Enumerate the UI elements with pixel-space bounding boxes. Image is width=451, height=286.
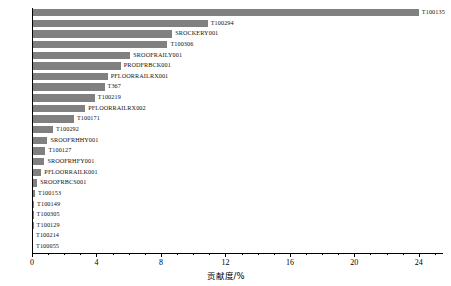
bar-row: PFLOORRAILK001 (32, 168, 443, 179)
bar-row: T100294 (32, 19, 443, 30)
x-minor-tick (64, 253, 65, 255)
x-tick-label: 20 (350, 258, 358, 267)
bar-row: T100171 (32, 114, 443, 125)
bar (32, 115, 74, 122)
bar (32, 52, 130, 59)
bar-row: T100055 (32, 242, 443, 253)
x-tick-label: 24 (415, 258, 423, 267)
bar-category-label: PFLOORRAILK001 (44, 167, 97, 178)
bar-row: T100214 (32, 231, 443, 242)
x-minor-tick (338, 253, 339, 255)
x-tick (96, 253, 97, 257)
x-tick (225, 253, 226, 257)
x-tick (161, 253, 162, 257)
bar-row: SROOFRHHY001 (32, 136, 443, 147)
x-minor-tick (387, 253, 388, 255)
bar-row: T100149 (32, 200, 443, 211)
bar (32, 105, 85, 112)
bar (32, 30, 172, 37)
bar-category-label: SROOFRBCS001 (40, 177, 86, 188)
x-minor-tick (145, 253, 146, 255)
x-minor-tick (113, 253, 114, 255)
bar (32, 41, 167, 48)
x-minor-tick (80, 253, 81, 255)
x-minor-tick (48, 253, 49, 255)
bar-row: SROCKERY001 (32, 29, 443, 40)
x-tick-label: 12 (221, 258, 229, 267)
x-minor-tick (242, 253, 243, 255)
x-tick (354, 253, 355, 257)
x-minor-tick (306, 253, 307, 255)
x-minor-tick (193, 253, 194, 255)
bar (32, 83, 105, 90)
bar-category-label: T100219 (98, 92, 121, 103)
bar-row: SROOFRAILY001 (32, 51, 443, 62)
bar (32, 137, 47, 144)
x-tick (419, 253, 420, 257)
x-tick-label: 0 (30, 258, 34, 267)
x-minor-tick (403, 253, 404, 255)
bar-category-label: T100306 (170, 39, 193, 50)
bar-category-label: T100305 (37, 209, 60, 220)
bar-row: T367 (32, 82, 443, 93)
bar-category-label: T100153 (38, 188, 61, 199)
plot-area: T100135T100294SROCKERY001T100306SROOFRAI… (32, 8, 443, 253)
y-axis-line (32, 8, 33, 253)
bar (32, 94, 95, 101)
x-minor-tick (129, 253, 130, 255)
x-axis-title: 贡献度/% (0, 269, 451, 281)
bar-category-label: T100127 (48, 145, 71, 156)
bar-row: PRODFRBCK001 (32, 61, 443, 72)
bar-row: T100129 (32, 221, 443, 232)
x-tick-label: 4 (94, 258, 98, 267)
bar (32, 158, 44, 165)
bar-category-label: PFLOORRAILRX001 (111, 71, 169, 82)
x-minor-tick (258, 253, 259, 255)
bar-category-label: T100135 (422, 7, 445, 18)
bar (32, 9, 419, 16)
bar-category-label: SROOFRHFY001 (47, 156, 94, 167)
bar-category-label: T100129 (37, 220, 60, 231)
bar-category-label: T367 (108, 81, 121, 92)
bar-category-label: SROOFRHHY001 (50, 135, 98, 146)
bar (32, 20, 208, 27)
bar-row: T100135 (32, 8, 443, 19)
bar (32, 169, 41, 176)
x-tick (290, 253, 291, 257)
bar-row: T100305 (32, 210, 443, 221)
x-axis-line (32, 253, 443, 254)
bar-category-label: T100292 (56, 124, 79, 135)
x-minor-tick (322, 253, 323, 255)
bar (32, 62, 121, 69)
x-minor-tick (209, 253, 210, 255)
bar-category-label: SROCKERY001 (175, 28, 218, 39)
bar-category-label: T100214 (36, 230, 59, 241)
bar-category-label: T100171 (77, 113, 100, 124)
bar-category-label: T100055 (36, 241, 59, 252)
bar-category-label: SROOFRAILY001 (133, 50, 182, 61)
bar-category-label: PFLOORRAILRX002 (88, 103, 146, 114)
bar-category-label: T100149 (37, 199, 60, 210)
bar-row: T100306 (32, 40, 443, 51)
x-tick-label: 16 (286, 258, 294, 267)
bar-row: SROOFRBCS001 (32, 178, 443, 189)
bar-row: PFLOORRAILRX001 (32, 72, 443, 83)
bar-category-label: PRODFRBCK001 (124, 60, 171, 71)
bar (32, 73, 108, 80)
bar-category-label: T100294 (211, 18, 234, 29)
contribution-bar-chart: T100135T100294SROCKERY001T100306SROOFRAI… (0, 0, 451, 286)
bar (32, 147, 45, 154)
x-minor-tick (370, 253, 371, 255)
bar-row: T100153 (32, 189, 443, 200)
x-minor-tick (177, 253, 178, 255)
x-minor-tick (274, 253, 275, 255)
x-tick-label: 8 (159, 258, 163, 267)
x-tick (32, 253, 33, 257)
x-minor-tick (435, 253, 436, 255)
bar (32, 126, 53, 133)
